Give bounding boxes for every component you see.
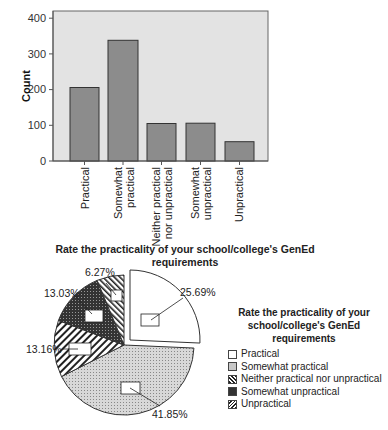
legend-title-line2: school/college's GenEd requirements xyxy=(220,319,388,345)
pct-practical: 25.69% xyxy=(180,286,216,298)
y-tick: 400 xyxy=(28,12,46,24)
x-tick-neither-2: nor unpractical xyxy=(162,167,174,239)
pct-somewhat-unpractical: 13.03% xyxy=(44,287,80,299)
pie-chart: 25.69% 41.85% 13.16% 13.03% 6.27% xyxy=(26,266,216,420)
x-tick-somewhat-practical-2: practical xyxy=(124,167,136,208)
legend-label: Neither practical nor unpractical xyxy=(241,373,382,386)
x-tick-unpractical: Unpractical xyxy=(233,167,245,222)
legend-title: Rate the practicality of your school/col… xyxy=(220,306,388,345)
legend-label: Somewhat unpractical xyxy=(241,386,339,399)
y-tick: 300 xyxy=(28,48,46,60)
x-axis: Practical Somewhat practical Neither pra… xyxy=(53,161,268,246)
pct-neither: 13.16% xyxy=(26,343,62,355)
y-tick: 0 xyxy=(40,155,46,167)
swatch-neither-icon xyxy=(228,375,237,384)
pie-chart-title: Rate the practicality of your school/col… xyxy=(20,243,350,269)
legend-label: Somewhat practical xyxy=(241,361,328,374)
bar-neither xyxy=(147,124,176,162)
legend-item-somewhat-practical: Somewhat practical xyxy=(220,361,388,374)
swatch-practical-icon xyxy=(228,350,237,359)
slice-practical xyxy=(130,270,200,343)
swatch-unpractical-icon xyxy=(228,400,237,409)
swatch-somewhat-unpractical-icon xyxy=(228,387,237,396)
bar-practical xyxy=(70,88,99,162)
x-tick-somewhat-unpractical-1: Somewhat xyxy=(189,167,201,219)
legend-title-line1: Rate the practicality of your xyxy=(220,306,388,319)
legend-item-unpractical: Unpractical xyxy=(220,398,388,411)
bar-chart: 0 100 200 300 400 Count Practical Somewh… xyxy=(20,11,268,246)
legend-label: Unpractical xyxy=(241,398,291,411)
pct-somewhat-practical: 41.85% xyxy=(152,408,188,420)
bar-unpractical xyxy=(225,142,254,161)
pie-legend: Rate the practicality of your school/col… xyxy=(220,306,388,411)
pie-title-line1: Rate the practicality of your school/col… xyxy=(20,243,350,256)
y-tick: 100 xyxy=(28,119,46,131)
y-axis: 0 100 200 300 400 Count xyxy=(20,11,53,167)
bar-somewhat-practical xyxy=(108,40,138,161)
x-tick-somewhat-practical-1: Somewhat xyxy=(112,167,124,219)
x-tick-practical: Practical xyxy=(79,167,91,209)
x-tick-somewhat-unpractical-2: unpractical xyxy=(201,167,213,220)
legend-item-somewhat-unpractical: Somewhat unpractical xyxy=(220,386,388,399)
swatch-somewhat-practical-icon xyxy=(228,362,237,371)
y-axis-label: Count xyxy=(20,70,32,102)
x-tick-neither-1: Neither practical xyxy=(150,167,162,246)
legend-item-neither: Neither practical nor unpractical xyxy=(220,373,388,386)
legend-label: Practical xyxy=(241,348,279,361)
legend-item-practical: Practical xyxy=(220,348,388,361)
pie-title-line2: requirements xyxy=(20,256,350,269)
bar-somewhat-unpractical xyxy=(186,123,215,161)
